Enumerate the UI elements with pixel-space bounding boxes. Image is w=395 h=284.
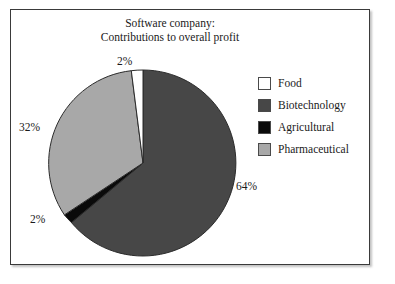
legend-swatch-food [258, 77, 271, 90]
legend-item-pharmaceutical[interactable]: Pharmaceutical [258, 138, 368, 160]
legend-label-pharmaceutical: Pharmaceutical [278, 143, 349, 155]
pie-label-pharmaceutical: 32% [19, 121, 40, 133]
legend-swatch-agricultural [258, 121, 271, 134]
pie-label-biotechnology: 64% [236, 180, 257, 192]
legend-swatch-biotechnology [258, 99, 271, 112]
pie-label-food: 2% [117, 55, 132, 67]
legend-item-biotechnology[interactable]: Biotechnology [258, 94, 368, 116]
legend-label-biotechnology: Biotechnology [278, 99, 346, 111]
legend-label-agricultural: Agricultural [278, 121, 334, 133]
pie-label-agricultural: 2% [30, 213, 45, 225]
legend-item-agricultural[interactable]: Agricultural [258, 116, 368, 138]
legend-item-food[interactable]: Food [258, 72, 368, 94]
legend-swatch-pharmaceutical [258, 143, 271, 156]
legend: Food Biotechnology Agricultural Pharmace… [258, 72, 368, 160]
figure-canvas: Software company: Contributions to overa… [0, 0, 395, 284]
legend-label-food: Food [278, 77, 302, 89]
